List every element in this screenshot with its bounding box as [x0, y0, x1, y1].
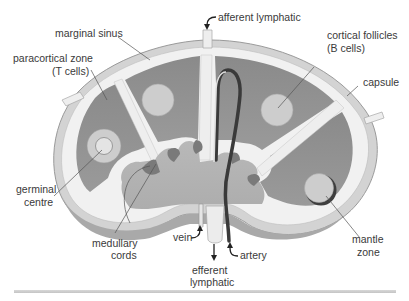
label-artery: artery	[240, 249, 268, 261]
lymph-node-diagram: afferent lymphatic marginal sinus paraco…	[0, 0, 409, 301]
label-cortical-follicles-1: cortical follicles	[327, 29, 398, 41]
label-mantle-zone-2: zone	[357, 246, 380, 258]
label-efferent-lymphatic-2: lymphatic	[190, 276, 234, 288]
germinal-centre	[96, 138, 113, 155]
follicle-upper-right	[261, 94, 293, 126]
label-mantle-zone-1: mantle	[352, 233, 384, 245]
label-cortical-follicles-2: (B cells)	[327, 42, 365, 54]
label-efferent-lymphatic-1: efferent	[192, 264, 227, 276]
label-paracortical-zone-1: paracortical zone	[13, 52, 93, 64]
label-germinal-centre-2: centre	[24, 196, 53, 208]
label-medullary-cords-2: cords	[111, 249, 137, 261]
artery-arrow-icon	[227, 242, 238, 256]
label-marginal-sinus: marginal sinus	[55, 27, 123, 39]
label-vein: vein	[173, 231, 192, 243]
follicle-mantle	[305, 174, 334, 203]
afferent-arrow-icon	[204, 17, 216, 30]
bottom-divider	[14, 290, 396, 293]
label-capsule: capsule	[363, 76, 399, 88]
label-germinal-centre-1: germinal	[16, 183, 56, 195]
label-medullary-cords-1: medullary	[92, 237, 138, 249]
afferent-lymphatic-vessel	[203, 30, 212, 48]
follicle-upper-middle	[142, 84, 174, 116]
efferent-lymphatic-vessel	[206, 206, 224, 243]
efferent-arrow-icon	[211, 244, 217, 261]
label-paracortical-zone-2: (T cells)	[52, 65, 89, 77]
vein	[199, 204, 203, 228]
label-afferent-lymphatic: afferent lymphatic	[218, 11, 301, 23]
